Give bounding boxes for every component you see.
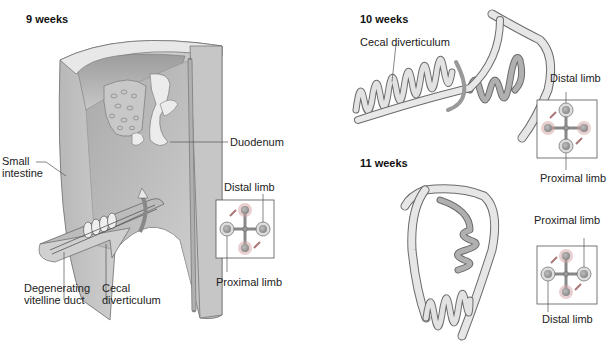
ten-week-gut-loops [356,14,551,138]
rotation-inset-11-weeks [537,238,597,312]
panel-title-10-weeks: 10 weeks [360,13,408,25]
eleven-week-gut-loops [405,189,495,336]
diagram-graphics [0,0,613,347]
label-cecal-diverticulum-9wk: Cecal diverticulum [102,282,161,306]
inset-label-proximal-limb-10wk: Proximal limb [540,172,606,184]
label-small-intestine: Small intestine [2,155,43,179]
panel-title-11-weeks: 11 weeks [360,157,408,169]
label-cecal-diverticulum-10wk: Cecal diverticulum [360,36,450,48]
panel-title-9-weeks: 9 weeks [26,13,68,25]
inset-label-distal-limb-10wk: Distal limb [550,72,601,84]
label-degenerating-vitelline-duct: Degenerating vitelline duct [24,282,90,306]
diagram-stage: 9 weeks Duodenum Small intestine Degener… [0,0,613,347]
inset-label-distal-limb-9wk: Distal limb [224,181,275,193]
nine-week-embryo-cross-section [39,40,222,320]
inset-label-proximal-limb-11wk: Proximal limb [534,214,600,226]
inset-label-distal-limb-11wk: Distal limb [542,313,593,325]
rotation-inset-9-weeks [216,194,274,272]
label-duodenum: Duodenum [230,136,284,148]
rotation-inset-10-weeks [537,92,597,170]
inset-label-proximal-limb-9wk: Proximal limb [216,276,282,288]
